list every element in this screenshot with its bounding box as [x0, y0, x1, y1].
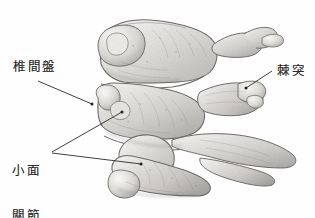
label-facet-joint: 小面 關節: [12, 133, 41, 218]
vertebra-middle: [96, 76, 266, 139]
label-facet-joint-line1: 小面: [12, 163, 41, 178]
vertebra-superior: [98, 20, 283, 83]
vertebrae-illustration: [0, 0, 315, 218]
label-facet-joint-line2: 關節: [12, 208, 41, 218]
anatomy-figure: 椎間盤 小面 關節 棘突: [0, 0, 315, 218]
label-intervertebral-disc: 椎間盤: [13, 59, 57, 74]
leader-disc: [38, 81, 94, 106]
label-spinous-process: 棘突: [277, 63, 306, 78]
